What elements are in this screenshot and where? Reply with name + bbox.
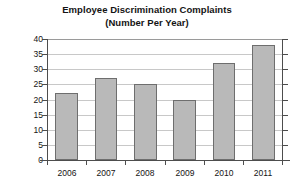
bar-2009 <box>173 100 196 161</box>
chart-title: Employee Discrimination Complaints (Numb… <box>0 4 294 29</box>
y-tick-label: 40 <box>27 35 43 44</box>
bar-2007 <box>95 78 118 160</box>
x-tick-label-2009: 2009 <box>165 168 205 178</box>
y-tick-label: 35 <box>27 50 43 59</box>
y-axis-tick-right <box>283 84 288 85</box>
y-axis-tick <box>42 84 47 85</box>
gridline <box>47 54 283 55</box>
x-tick-label-2008: 2008 <box>125 168 165 178</box>
bar-2010 <box>213 63 236 160</box>
y-axis-tick <box>42 145 47 146</box>
gridline <box>47 100 283 101</box>
y-tick-label: 20 <box>27 96 43 105</box>
y-axis-tick <box>42 100 47 101</box>
y-axis-tick <box>42 54 47 55</box>
x-axis-tick <box>282 161 283 165</box>
x-axis-tick <box>47 161 48 165</box>
gridline <box>47 84 283 85</box>
y-axis-tick-right <box>283 54 288 55</box>
bar-2011 <box>252 45 275 160</box>
chart-title-line1: Employee Discrimination Complaints <box>62 4 232 15</box>
gridline <box>47 115 283 116</box>
y-axis-tick <box>42 39 47 40</box>
bar-2006 <box>55 93 78 160</box>
bar-chart: Employee Discrimination Complaints (Numb… <box>0 0 294 191</box>
x-tick-label-2011: 2011 <box>243 168 283 178</box>
gridline <box>47 130 283 131</box>
x-axis-tick <box>243 161 244 165</box>
y-tick-label: 30 <box>27 65 43 74</box>
y-axis-line <box>47 39 48 161</box>
x-axis-tick <box>86 161 87 165</box>
y-axis-tick-labels: 40 35 30 25 20 15 10 5 0 <box>25 39 43 160</box>
y-tick-label: 10 <box>27 126 43 135</box>
y-axis-tick-right <box>283 145 288 146</box>
gridline <box>47 145 283 146</box>
x-axis-tick <box>204 161 205 165</box>
y-axis-tick-right <box>283 115 288 116</box>
y-axis-tick-right <box>283 39 288 40</box>
y-axis-tick-right <box>283 69 288 70</box>
bar-2008 <box>134 84 157 160</box>
y-axis-tick-right <box>283 130 288 131</box>
x-tick-label-2007: 2007 <box>86 168 126 178</box>
x-tick-label-2006: 2006 <box>47 168 87 178</box>
plot-area <box>47 39 283 160</box>
x-axis-tick <box>165 161 166 165</box>
y-tick-label: 25 <box>27 80 43 89</box>
gridline <box>47 69 283 70</box>
gridline <box>47 39 283 40</box>
y-tick-label: 15 <box>27 111 43 120</box>
x-tick-label-2010: 2010 <box>204 168 244 178</box>
y-axis-tick-right <box>283 100 288 101</box>
chart-title-line2: (Number Per Year) <box>0 17 294 30</box>
x-axis-tick <box>125 161 126 165</box>
y-tick-label: 5 <box>27 141 43 150</box>
y-axis-tick <box>42 69 47 70</box>
y-axis-tick <box>42 130 47 131</box>
y-axis-tick <box>42 115 47 116</box>
